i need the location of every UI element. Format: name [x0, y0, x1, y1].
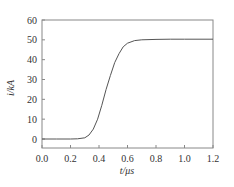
y-tick-label: 0: [32, 134, 37, 145]
current-curve: [42, 39, 213, 139]
x-tick-label: 0.2: [64, 153, 77, 164]
y-tick-label: 10: [27, 114, 37, 125]
x-tick-label: 0.4: [93, 153, 106, 164]
y-tick-label: 50: [27, 34, 37, 45]
y-axis-title: i/kA: [5, 79, 16, 96]
y-tick-label: 30: [27, 74, 37, 85]
x-tick-label: 0.6: [121, 153, 134, 164]
x-tick-label: 1.2: [207, 153, 220, 164]
x-tick-label: 1.0: [178, 153, 191, 164]
x-tick-label: 0.0: [36, 153, 49, 164]
x-axis-title: t/μs: [120, 165, 135, 176]
y-tick-label: 40: [27, 54, 37, 65]
x-tick-label: 0.8: [150, 153, 163, 164]
y-tick-label: 60: [27, 15, 37, 26]
y-tick-label: 20: [27, 94, 37, 105]
line-chart: 0102030405060 0.00.20.40.60.81.01.2 i/kA…: [0, 0, 234, 187]
